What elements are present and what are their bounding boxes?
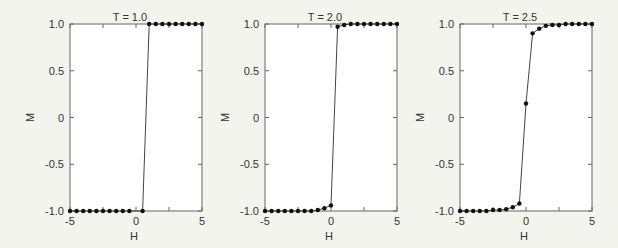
x-axis-label: H [325,230,333,242]
y-tick-label: 1.0 [439,18,454,30]
y-tick-label: -1.0 [435,205,454,217]
y-tick-label: 0.5 [439,65,454,77]
data-point [544,24,548,28]
data-point [458,209,462,213]
data-point [154,22,158,26]
x-tick-label: 0 [133,215,139,227]
hysteresis-plots: 1.00.50-0.5-1.0-505T = 1.0HM1.00.50-0.5-… [0,0,618,248]
data-point [263,209,267,213]
plot-frame [70,24,202,211]
data-point [187,22,191,26]
x-axis-label: H [520,230,528,242]
data-point [362,22,366,26]
data-point [524,101,528,105]
x-tick-label: 5 [199,215,205,227]
data-point [147,22,151,26]
data-point [577,22,581,26]
data-point [504,207,508,211]
data-point [563,22,567,26]
data-point [349,22,353,26]
data-point [478,209,482,213]
chart-panel-2: 1.00.50-0.5-1.0-505T = 2.0HM [219,11,400,242]
data-point [382,22,386,26]
data-point [107,209,111,213]
x-tick-label: 5 [589,215,595,227]
y-axis-label: M [414,113,426,122]
data-point [114,209,118,213]
x-tick-label: 5 [394,215,400,227]
data-point [583,22,587,26]
y-tick-label: 0.5 [244,65,259,77]
data-point [395,22,399,26]
chart-title: T = 2.0 [308,11,342,23]
data-point [557,23,561,27]
data-point [296,209,300,213]
x-tick-label: 0 [328,215,334,227]
data-point [68,209,72,213]
data-point [309,209,313,213]
data-point [167,22,171,26]
data-point [94,209,98,213]
data-point [140,209,144,213]
data-point [283,209,287,213]
data-point [193,22,197,26]
data-point [88,209,92,213]
data-point [289,209,293,213]
data-point [160,22,164,26]
y-tick-label: 0 [58,112,64,124]
data-point [276,209,280,213]
data-point [368,22,372,26]
data-point [471,209,475,213]
data-point [570,22,574,26]
chart-panel-3: 1.00.50-0.5-1.0-505T = 2.5HM [414,11,595,242]
chart-panel-1: 1.00.50-0.5-1.0-505T = 1.0HM [24,11,205,242]
data-point [302,209,306,213]
chart-title: T = 2.5 [503,11,537,23]
data-point [550,23,554,27]
y-tick-label: 1.0 [49,18,64,30]
y-tick-label: 0 [448,112,454,124]
x-tick-label: -5 [65,215,75,227]
y-tick-label: -0.5 [240,158,259,170]
x-tick-label: -5 [455,215,465,227]
y-tick-label: -0.5 [45,158,64,170]
y-tick-label: -1.0 [240,205,259,217]
data-point [342,23,346,27]
data-point [173,22,177,26]
y-tick-label: 0 [253,112,259,124]
data-point [180,22,184,26]
data-point [269,209,273,213]
data-point [101,209,105,213]
figure: 1.00.50-0.5-1.0-505T = 1.0HM1.00.50-0.5-… [0,0,618,248]
data-point [355,22,359,26]
data-point [200,22,204,26]
data-point [590,22,594,26]
data-point [497,208,501,212]
data-point [316,208,320,212]
data-point [530,31,534,35]
plot-frame [460,24,592,211]
data-point [322,206,326,210]
x-tick-label: -5 [260,215,270,227]
data-point [517,201,521,205]
data-point [127,209,131,213]
data-point [335,25,339,29]
data-point [537,26,541,30]
y-tick-label: 1.0 [244,18,259,30]
x-axis-label: H [130,230,138,242]
data-point [81,209,85,213]
data-point [511,205,515,209]
y-tick-label: -1.0 [45,205,64,217]
data-point [329,203,333,207]
data-point [484,209,488,213]
y-axis-label: M [24,113,36,122]
chart-title: T = 1.0 [113,11,147,23]
y-axis-label: M [219,113,231,122]
data-point [74,209,78,213]
y-tick-label: 0.5 [49,65,64,77]
data-point [491,208,495,212]
y-tick-label: -0.5 [435,158,454,170]
data-point [375,22,379,26]
data-point [464,209,468,213]
data-point [388,22,392,26]
